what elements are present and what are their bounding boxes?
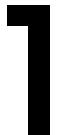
glyph-stem <box>28 5 50 135</box>
glyph-dalet: ד <box>0 0 59 135</box>
glyph-character: ד <box>0 0 1 1</box>
